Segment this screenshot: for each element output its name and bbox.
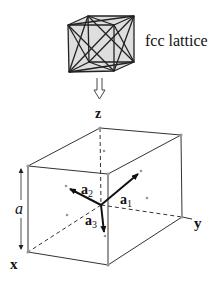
x-axis-label: x [10, 256, 18, 272]
y-axis-label: y [194, 215, 202, 231]
vector-a3-label: a3 [85, 213, 97, 230]
down-arrow-icon [94, 78, 105, 99]
fcc-cube-icon [68, 16, 134, 72]
vector-a1-label: a1 [120, 192, 132, 209]
fcc-diagram: fcc lattice [0, 0, 216, 287]
y-axis-line [101, 205, 182, 217]
edge-length-label: a [15, 200, 23, 217]
fcc-lattice-label: fcc lattice [145, 32, 208, 49]
z-axis-line [100, 128, 101, 205]
vector-a3-arrow [101, 205, 104, 232]
vector-a2-label: a2 [81, 182, 93, 199]
lattice-points [26, 126, 183, 266]
z-axis-label: z [95, 106, 101, 121]
